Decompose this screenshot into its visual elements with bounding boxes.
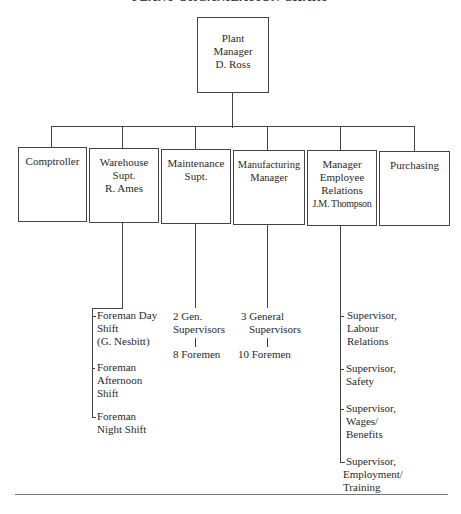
- report-line: Shift: [97, 322, 157, 335]
- report-line: Training: [343, 481, 403, 494]
- connector-line: [267, 126, 268, 150]
- maintenance-supervisors: 2 Gen. Supervisors: [173, 310, 225, 336]
- box-label: J.M. Thompson: [308, 197, 376, 210]
- report-line: Safety: [346, 375, 396, 388]
- report-line: 3 General: [241, 310, 301, 323]
- box-label: Relations: [308, 184, 376, 197]
- employee-relations-box: Manager Employee Relations J.M. Thompson: [307, 150, 377, 226]
- connector-tick: [340, 409, 344, 410]
- warehouse-report-day: Foreman Day Shift (G. Nesbitt): [97, 309, 157, 348]
- report-line: Supervisor,: [346, 362, 396, 375]
- box-label: Manager: [308, 158, 376, 171]
- report-line: Supervisors: [173, 323, 225, 336]
- box-label: Purchasing: [380, 159, 449, 172]
- box-label: Comptroller: [19, 155, 86, 168]
- connector-line: [51, 126, 415, 127]
- connector-line: [195, 126, 196, 149]
- connector-line: [195, 224, 196, 308]
- report-line: Supervisors: [241, 323, 301, 336]
- warehouse-report-night: Foreman Night Shift: [97, 410, 146, 436]
- warehouse-box: Warehouse Supt. R. Ames: [89, 148, 159, 223]
- er-report-employment: Supervisor, Employment/ Training: [346, 455, 403, 494]
- report-line: Foreman: [97, 361, 142, 374]
- connector-line: [195, 338, 196, 347]
- connector-line: [232, 92, 233, 128]
- connector-tick: [92, 368, 95, 369]
- chart-title: PLANT ORGANIZATION CHART: [0, 0, 461, 5]
- report-line: (G. Nesbitt): [97, 335, 157, 348]
- report-line: Employment/: [343, 468, 403, 481]
- manufacturing-foremen: 10 Foremen: [238, 348, 291, 361]
- box-label: Manufacturing: [234, 158, 304, 171]
- connector-line: [414, 126, 415, 152]
- report-line: Night Shift: [97, 423, 146, 436]
- connector-line: [51, 126, 52, 147]
- report-line: Labour: [347, 322, 397, 335]
- maintenance-foremen: 8 Foremen: [173, 348, 220, 361]
- report-line: Foreman: [97, 410, 146, 423]
- box-label: Warehouse: [90, 156, 158, 169]
- purchasing-box: Purchasing: [379, 151, 450, 226]
- report-line: Relations: [347, 335, 397, 348]
- connector-line: [122, 223, 123, 309]
- plant-manager-box: Plant Manager D. Ross: [197, 17, 269, 93]
- er-report-safety: Supervisor, Safety: [346, 362, 396, 388]
- warehouse-report-afternoon: Foreman Afternoon Shift: [97, 361, 142, 400]
- box-label: Manager: [234, 171, 304, 184]
- connector-tick: [92, 316, 96, 317]
- plant-manager-line: D. Ross: [198, 58, 268, 71]
- box-label: Employee: [308, 171, 376, 184]
- connector-line: [267, 225, 268, 308]
- connector-line: [267, 338, 268, 347]
- box-label: Supt.: [162, 170, 230, 183]
- box-label: Supt.: [90, 169, 158, 182]
- plant-manager-line: Plant: [198, 32, 268, 45]
- maintenance-box: Maintenance Supt.: [161, 149, 231, 224]
- bottom-rule: [15, 494, 448, 495]
- report-line: Afternoon: [97, 374, 142, 387]
- connector-tick: [92, 417, 96, 418]
- box-label: Maintenance: [162, 157, 230, 170]
- report-line: Shift: [97, 387, 142, 400]
- connector-tick: [340, 462, 345, 463]
- manufacturing-box: Manufacturing Manager: [233, 150, 305, 225]
- plant-manager-line: Manager: [198, 45, 268, 58]
- connector-tick: [340, 369, 344, 370]
- report-line: Benefits: [346, 428, 396, 441]
- connector-line: [92, 308, 93, 418]
- report-line: Supervisor,: [347, 309, 397, 322]
- report-line: Wages/: [346, 415, 396, 428]
- er-report-wages: Supervisor, Wages/ Benefits: [346, 402, 396, 441]
- connector-line: [122, 126, 123, 148]
- report-line: Supervisor,: [346, 402, 396, 415]
- report-line: Foreman Day: [97, 309, 157, 322]
- connector-line: [340, 126, 341, 151]
- report-line: 2 Gen.: [173, 310, 225, 323]
- er-report-labour: Supervisor, Labour Relations: [347, 309, 397, 348]
- box-label: R. Ames: [90, 182, 158, 195]
- manufacturing-supervisors: 3 General Supervisors: [241, 310, 301, 336]
- report-line: Supervisor,: [346, 455, 403, 468]
- connector-line: [340, 226, 341, 463]
- connector-tick: [340, 316, 344, 317]
- comptroller-box: Comptroller: [18, 147, 87, 222]
